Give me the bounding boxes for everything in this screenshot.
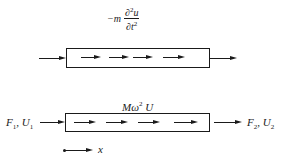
bottom-force-label: Mω2 U [122,98,153,113]
arrowhead-icon [178,55,185,59]
top-force-denominator: ∂t2 [126,19,137,32]
arrowhead-icon [122,55,129,59]
top-force-numerator: ∂2u [124,5,139,19]
arrowhead-icon [86,148,93,152]
arrowhead-icon [153,120,160,124]
left-end-label: F1, U1 [6,116,33,133]
arrowhead-icon [58,120,65,124]
arrowhead-icon [94,55,101,59]
top-force-prefix: −m [107,13,121,24]
bottom-element-box [65,113,210,132]
arrowhead-icon [146,55,153,59]
arrowhead-icon [89,120,96,124]
top-element-box [66,48,210,68]
arrowhead-icon [230,56,237,60]
arrowhead-icon [191,120,198,124]
arrowhead-icon [121,120,128,124]
right-end-label: F2, U2 [247,116,274,133]
x-axis-label: x [98,143,103,155]
arrowhead-icon [235,120,242,124]
top-force-label: −m ∂2u ∂t2 [107,5,139,33]
arrowhead-icon [59,56,66,60]
